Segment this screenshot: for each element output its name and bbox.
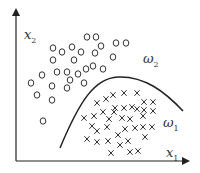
circle-marker (100, 66, 106, 72)
circle-marker (40, 118, 46, 124)
cross-marker (119, 115, 124, 121)
circle-marker (69, 44, 75, 50)
cross-marker (121, 105, 126, 111)
circle-marker (98, 43, 104, 49)
circle-marker (50, 57, 56, 63)
cross-marker (140, 124, 145, 130)
circle-marker (54, 69, 60, 75)
circle-marker (84, 34, 90, 40)
circle-marker (64, 85, 70, 91)
cross-marker (104, 124, 109, 130)
circle-marker (59, 49, 65, 55)
cross-marker (127, 116, 132, 122)
circle-marker (75, 71, 81, 77)
cross-marker (103, 96, 108, 102)
cross-marker (111, 109, 116, 115)
circle-marker (39, 72, 45, 78)
cross-marker (132, 125, 137, 131)
cross-marker (129, 104, 134, 110)
circle-marker (83, 66, 89, 72)
cross-marker (142, 134, 147, 140)
class-omega1-points (81, 90, 155, 156)
cross-marker (91, 113, 96, 119)
cross-marker (121, 90, 126, 96)
cross-marker (112, 105, 117, 111)
cross-marker (94, 128, 99, 134)
cross-marker (149, 124, 154, 130)
cross-marker (94, 139, 99, 145)
y-axis-label: x2 (24, 28, 36, 45)
class-omega2-label: ω2 (143, 52, 159, 69)
circle-marker (67, 77, 73, 83)
cross-marker (105, 138, 110, 144)
circle-marker (49, 83, 55, 89)
cross-marker (108, 150, 113, 156)
circle-marker (49, 97, 55, 103)
circle-marker (90, 63, 96, 69)
cross-marker (134, 106, 139, 112)
circle-marker (92, 50, 98, 56)
cross-marker (110, 92, 115, 98)
x-axis-label: x1 (166, 146, 178, 163)
cross-marker (141, 107, 146, 113)
circle-marker (110, 54, 116, 60)
cross-marker (81, 115, 86, 121)
circle-marker (50, 45, 56, 51)
cross-marker (140, 113, 145, 119)
cross-marker (150, 99, 155, 105)
cross-marker (94, 100, 99, 106)
cross-marker (89, 123, 94, 129)
circle-marker (81, 80, 87, 86)
class-omega1-label: ω1 (163, 116, 179, 133)
cross-marker (122, 126, 127, 132)
cross-marker (127, 149, 132, 155)
circle-marker (113, 40, 119, 46)
cross-marker (134, 90, 139, 96)
circle-marker (34, 92, 40, 98)
cross-marker (117, 142, 122, 148)
cross-marker (150, 108, 155, 114)
circle-marker (64, 69, 70, 75)
cross-marker (84, 136, 89, 142)
circle-marker (78, 49, 84, 55)
decision-boundary (60, 77, 183, 148)
cross-marker (141, 99, 146, 105)
circle-marker (28, 80, 34, 86)
cross-marker (106, 116, 111, 122)
circle-marker (123, 40, 129, 46)
cross-marker (135, 148, 140, 154)
circle-marker (71, 57, 77, 63)
circle-marker (93, 34, 99, 40)
cross-marker (125, 138, 130, 144)
cross-marker (100, 109, 105, 115)
cross-marker (115, 132, 120, 138)
